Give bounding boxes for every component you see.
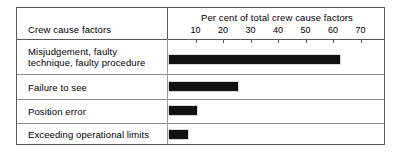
x-axis-tick-labels: 10203040506070 <box>168 25 386 37</box>
x-tick-label-70: 70 <box>355 25 365 35</box>
x-tick-label-50: 50 <box>300 25 310 35</box>
x-tick-mark-70 <box>361 39 362 43</box>
row-label-2: Position error <box>28 106 164 118</box>
row-label-1: Failure to see <box>28 82 164 94</box>
row-divider-1 <box>17 74 384 75</box>
x-tick-label-40: 40 <box>273 25 283 35</box>
row-label-line: Misjudgement, faulty <box>28 46 164 58</box>
bar-2 <box>168 105 198 116</box>
row-header-label: Crew cause factors <box>28 24 111 35</box>
chart-title: Per cent of total crew cause factors <box>168 12 386 23</box>
row-label-0: Misjudgement, faultytechnique, faulty pr… <box>28 46 164 69</box>
bar-1 <box>168 81 239 92</box>
row-label-line: Exceeding operational limits <box>28 129 164 141</box>
row-label-line: technique, faulty procedure <box>28 57 164 69</box>
row-label-line: Position error <box>28 106 164 118</box>
x-tick-label-20: 20 <box>218 25 228 35</box>
row-divider-2 <box>17 99 384 100</box>
bar-3 <box>168 129 189 140</box>
x-tick-mark-40 <box>278 39 279 43</box>
row-label-line: Failure to see <box>28 82 164 94</box>
x-tick-mark-60 <box>333 39 334 43</box>
x-tick-mark-10 <box>196 39 197 43</box>
bar-0 <box>168 54 341 65</box>
x-tick-mark-20 <box>223 39 224 43</box>
x-tick-label-60: 60 <box>328 25 338 35</box>
chart-figure: Crew cause factors Per cent of total cre… <box>16 7 385 145</box>
axis-line <box>17 39 384 40</box>
row-divider-3 <box>17 123 384 124</box>
x-tick-mark-50 <box>306 39 307 43</box>
value-axis-baseline <box>167 39 168 144</box>
x-tick-label-10: 10 <box>190 25 200 35</box>
row-label-3: Exceeding operational limits <box>28 129 164 141</box>
x-tick-mark-30 <box>251 39 252 43</box>
x-tick-label-30: 30 <box>245 25 255 35</box>
